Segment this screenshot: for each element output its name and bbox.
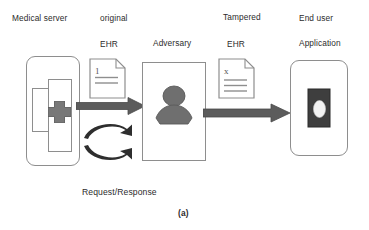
label-ehr-tampered: EHR [227, 40, 245, 48]
document-mark-tampered: x [224, 66, 229, 76]
document-icon-tampered-ehr: x [218, 58, 255, 99]
person-silhouette-icon-adversary [155, 85, 193, 125]
label-ehr-original: EHR [100, 40, 118, 48]
label-request-response: Request/Response [82, 188, 157, 197]
mobile-phone-icon [307, 88, 331, 128]
label-end-user: End user [299, 14, 333, 22]
right-arrow-adversary-to-enduser [203, 103, 291, 123]
server-cross-icon [48, 101, 71, 123]
curved-right-arrow-response [82, 141, 140, 165]
label-application: Application [299, 39, 341, 47]
right-arrow-server-to-adversary [76, 97, 146, 115]
document-icon-original-ehr: 1 [89, 58, 126, 99]
label-tampered: Tampered [223, 13, 261, 21]
curved-right-arrow-request [82, 119, 140, 143]
figure-caption: (a) [178, 209, 189, 217]
ehr-tampering-diagram: Medical server original Tampered End use… [0, 0, 369, 230]
label-adversary: Adversary [153, 39, 191, 47]
label-medical-server: Medical server [12, 14, 67, 22]
document-mark-original: 1 [95, 66, 100, 76]
label-original: original [100, 14, 128, 22]
